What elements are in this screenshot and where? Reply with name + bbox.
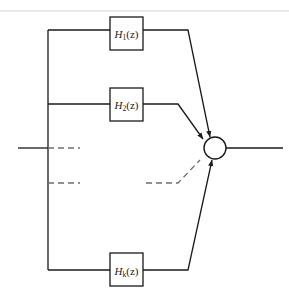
branch-2-output-line — [143, 104, 203, 139]
h2-arg: (z) — [126, 99, 139, 112]
summing-junction-node — [204, 137, 226, 159]
hk-arg: (z) — [126, 265, 139, 278]
branch-1-output-line — [143, 30, 210, 137]
branch-k-output-line — [143, 160, 212, 270]
diagonal-ellipsis-dashed-line — [146, 160, 200, 183]
diagram-canvas: H1(z) H2(z) Hk(z) — [0, 0, 289, 298]
h1-arg: (z) — [126, 28, 139, 41]
filter-bank-figure: H1(z) H2(z) Hk(z) — [0, 0, 289, 298]
